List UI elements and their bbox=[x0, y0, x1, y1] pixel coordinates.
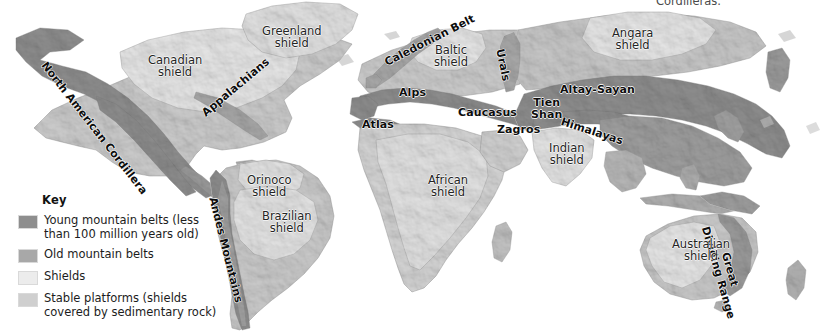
legend-swatch-young-mountain-belts bbox=[18, 215, 38, 229]
legend-swatch-stable-platforms bbox=[18, 293, 38, 307]
legend-row-stable-platforms: Stable platforms (shields covered by sed… bbox=[18, 292, 218, 319]
legend-swatch-shields bbox=[18, 271, 38, 285]
legend-label-stable-platforms: Stable platforms (shields covered by sed… bbox=[44, 292, 216, 319]
legend-swatch-old-mountain-belts bbox=[18, 249, 38, 263]
legend-row-old-mountain-belts: Old mountain belts bbox=[18, 248, 218, 263]
legend-row-young-mountain-belts: Young mountain belts (less than 100 mill… bbox=[18, 214, 218, 241]
map-legend: Key Young mountain belts (less than 100 … bbox=[18, 193, 218, 326]
world-map-figure: Cordilleras. North American CordilleraAp… bbox=[0, 0, 838, 335]
legend-rows: Young mountain belts (less than 100 mill… bbox=[18, 214, 218, 319]
legend-label-young-mountain-belts: Young mountain belts (less than 100 mill… bbox=[44, 214, 199, 241]
legend-label-old-mountain-belts: Old mountain belts bbox=[44, 248, 154, 262]
legend-row-shields: Shields bbox=[18, 270, 218, 285]
legend-label-shields: Shields bbox=[44, 270, 85, 284]
legend-title: Key bbox=[42, 193, 218, 207]
